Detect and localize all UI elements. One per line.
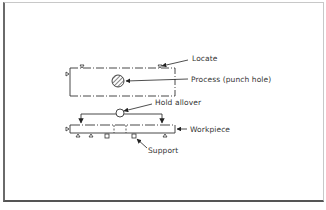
process-leader	[126, 79, 188, 81]
support-leader	[137, 139, 147, 148]
label-hold: Hold allover	[155, 98, 201, 107]
hold-clamp	[81, 109, 162, 123]
label-workpiece: Workpiece	[190, 125, 230, 134]
punch-hole-icon	[112, 75, 124, 87]
label-process: Process (punch hole)	[191, 75, 271, 84]
hold-icon	[116, 109, 124, 117]
figure-caption	[6, 205, 206, 210]
hold-leader	[124, 104, 152, 111]
workpiece-side-view	[70, 125, 175, 133]
locate-leader	[162, 60, 188, 66]
side-locate-icon	[66, 127, 69, 131]
label-support: Support	[148, 146, 178, 155]
label-locate: Locate	[192, 54, 218, 63]
locate-icon	[66, 65, 162, 76]
support-icons	[76, 134, 167, 138]
